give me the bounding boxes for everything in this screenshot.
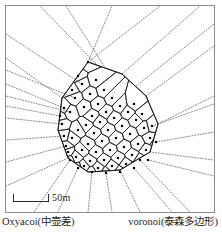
voronoi-cell-group: [58, 62, 158, 172]
caption-left: Oxyacoi(中壶差): [2, 215, 75, 228]
voronoi-figure: 50m Oxyacoi(中壶差) voronoi(泰森多边形): [0, 0, 222, 232]
unbounded-ray-group: [6, 6, 214, 212]
caption-row: Oxyacoi(中壶差) voronoi(泰森多边形): [0, 215, 222, 228]
scale-bar-line: [13, 194, 49, 202]
caption-right: voronoi(泰森多边形): [128, 215, 220, 228]
scale-bar: 50m: [13, 193, 70, 202]
scale-bar-label: 50m: [52, 193, 70, 202]
